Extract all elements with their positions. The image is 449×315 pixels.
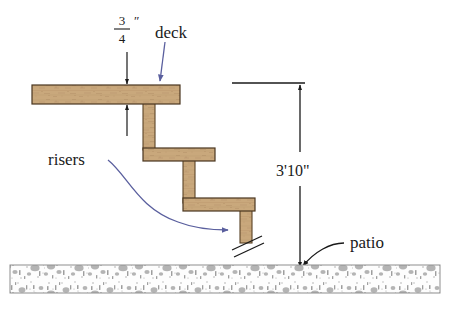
height-dimension-label: 3'10" [276, 162, 309, 179]
riser-middle [183, 155, 195, 203]
riser-upper [143, 100, 155, 150]
deck-board [32, 85, 180, 104]
tread-middle [143, 148, 215, 161]
thickness-numerator-label: 3 [119, 13, 126, 28]
risers-leader-arrow [108, 160, 228, 230]
deck-label: deck [155, 23, 188, 42]
stair-structure [32, 85, 264, 257]
thickness-denominator-label: 4 [119, 31, 126, 46]
tread-lower [183, 198, 255, 211]
patio-label: patio [350, 233, 384, 252]
concrete-patio-band [10, 265, 440, 293]
patio-leader-arrow [303, 243, 344, 266]
thickness-unit-label: ″ [134, 13, 139, 28]
diagram-canvas: 3 4 ″ deck risers 3'10" patio [0, 0, 449, 315]
text-labels: 3 4 ″ deck risers 3'10" patio [48, 13, 384, 252]
deck-leader-arrow [160, 42, 165, 81]
risers-label: risers [48, 150, 85, 169]
stairs-diagram-figure: 3 4 ″ deck risers 3'10" patio [0, 0, 449, 315]
